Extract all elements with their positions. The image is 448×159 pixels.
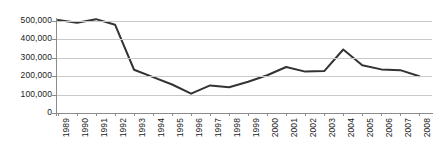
- x-axis-tick-label: 2004: [347, 118, 356, 137]
- x-axis-tick: [96, 113, 97, 116]
- x-axis-tick-label: 2003: [328, 118, 337, 137]
- x-axis-tick-label: 1989: [62, 118, 71, 137]
- y-axis-tick: [52, 95, 56, 96]
- x-axis-tick: [248, 113, 249, 116]
- x-axis-tick-label: 1993: [138, 118, 147, 137]
- x-axis-tick-label: 2007: [404, 118, 413, 137]
- x-axis-tick-label: 1995: [176, 118, 185, 137]
- x-axis-tick: [286, 113, 287, 116]
- x-axis-tick: [419, 113, 420, 116]
- x-axis-tick-label: 2006: [385, 118, 394, 137]
- x-axis-tick-label: 2000: [271, 118, 280, 137]
- x-axis-tick: [229, 113, 230, 116]
- x-axis-tick: [362, 113, 363, 116]
- x-axis-tick-label: 1997: [214, 118, 223, 137]
- x-axis-tick-label: 1999: [252, 118, 261, 137]
- y-axis-tick: [52, 21, 56, 22]
- x-axis-tick-label: 2005: [366, 118, 375, 137]
- x-axis-tick: [191, 113, 192, 116]
- x-axis-tick: [172, 113, 173, 116]
- x-axis-labels: 1989199019911992199319941995199619971998…: [0, 0, 448, 159]
- x-axis-tick-label: 1991: [100, 118, 109, 137]
- y-axis-tick: [52, 58, 56, 59]
- x-axis-tick: [134, 113, 135, 116]
- x-axis-tick-label: 1990: [81, 118, 90, 137]
- x-axis-tick: [153, 113, 154, 116]
- x-axis-tick: [343, 113, 344, 116]
- x-axis-tick: [58, 113, 59, 116]
- y-axis-tick: [52, 76, 56, 77]
- x-axis-tick-label: 1994: [157, 118, 166, 137]
- y-axis-tick: [52, 39, 56, 40]
- x-axis-tick-label: 1992: [119, 118, 128, 137]
- x-axis-tick: [267, 113, 268, 116]
- x-axis-tick-label: 2002: [309, 118, 318, 137]
- x-axis-tick: [115, 113, 116, 116]
- x-axis-tick-label: 2008: [423, 118, 432, 137]
- line-chart: 0100,000200,000300,000400,000500,000 198…: [0, 0, 448, 159]
- x-axis-tick: [305, 113, 306, 116]
- x-axis-tick-label: 1996: [195, 118, 204, 137]
- y-axis-tick: [52, 113, 56, 114]
- x-axis-tick-label: 2001: [290, 118, 299, 137]
- x-axis-tick-label: 1998: [233, 118, 242, 137]
- x-axis-tick: [381, 113, 382, 116]
- x-axis-tick: [324, 113, 325, 116]
- x-axis-tick: [400, 113, 401, 116]
- x-axis-tick: [77, 113, 78, 116]
- x-axis-tick: [210, 113, 211, 116]
